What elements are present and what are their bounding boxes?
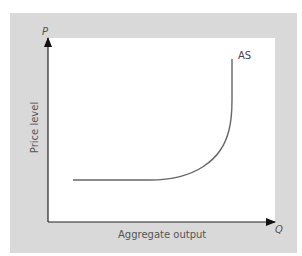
x-axis-symbol: Q bbox=[275, 224, 283, 235]
x-axis-title: Aggregate output bbox=[118, 229, 206, 240]
as-curve bbox=[73, 59, 232, 180]
y-axis-title: Price level bbox=[29, 98, 40, 158]
y-axis-symbol: P bbox=[42, 26, 48, 37]
as-curve-label: AS bbox=[238, 50, 251, 61]
chart-svg bbox=[0, 0, 302, 256]
